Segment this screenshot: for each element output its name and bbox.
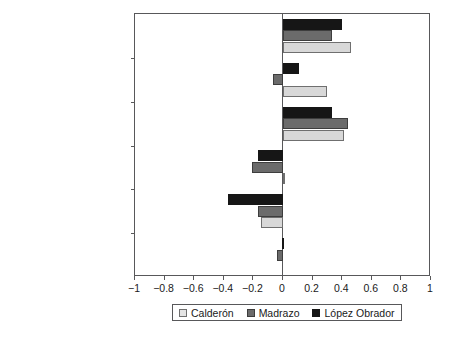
zero-axis-line (282, 14, 283, 275)
legend-swatch-calderon-icon (179, 309, 187, 317)
category-tick-5 (131, 233, 135, 234)
legend-swatch-madrazo-icon (247, 309, 255, 317)
bar-calderon-0 (283, 42, 351, 53)
bar-lopez-4 (228, 194, 283, 205)
bar-calderon-4 (261, 217, 283, 228)
category-tick-3 (131, 146, 135, 147)
x-tick-0 (134, 276, 135, 280)
x-tick-3 (223, 276, 224, 280)
bar-madrazo-5 (277, 250, 283, 261)
legend-label-calderon: Calderón (191, 307, 234, 319)
legend-entry-lopez: López Obrador (312, 307, 394, 319)
bar-lopez-3 (258, 150, 283, 161)
bar-madrazo-4 (258, 206, 283, 217)
bar-calderon-3 (283, 173, 285, 184)
bar-calderon-2 (283, 130, 344, 141)
x-tick-6 (312, 276, 313, 280)
bar-lopez-2 (283, 107, 332, 118)
plot-area (134, 13, 430, 276)
x-tick-5 (282, 276, 283, 280)
chart-figure: Social safety netPoverty reductionEconom… (0, 0, 449, 337)
legend-entry-calderon: Calderón (179, 307, 234, 319)
x-tick-9 (400, 276, 401, 280)
x-tick-1 (164, 276, 165, 280)
bar-madrazo-0 (283, 30, 332, 41)
x-tick-8 (371, 276, 372, 280)
bar-lopez-1 (283, 63, 299, 74)
bar-madrazo-2 (283, 118, 348, 129)
legend-swatch-lopez-icon (312, 309, 320, 317)
bar-lopez-5 (282, 238, 284, 249)
legend-label-madrazo: Madrazo (259, 307, 300, 319)
x-tick-label-10: 1 (410, 282, 449, 294)
x-tick-2 (193, 276, 194, 280)
legend-label-lopez: López Obrador (324, 307, 394, 319)
bar-calderon-1 (283, 86, 327, 97)
category-tick-4 (131, 189, 135, 190)
x-tick-4 (252, 276, 253, 280)
x-tick-7 (341, 276, 342, 280)
bar-madrazo-3 (252, 162, 283, 173)
category-tick-1 (131, 58, 135, 59)
bar-lopez-0 (283, 19, 342, 30)
legend-entry-madrazo: Madrazo (247, 307, 300, 319)
category-tick-2 (131, 102, 135, 103)
bar-madrazo-1 (273, 74, 283, 85)
x-tick-10 (430, 276, 431, 280)
chart-legend: CalderónMadrazoLópez Obrador (172, 304, 402, 321)
